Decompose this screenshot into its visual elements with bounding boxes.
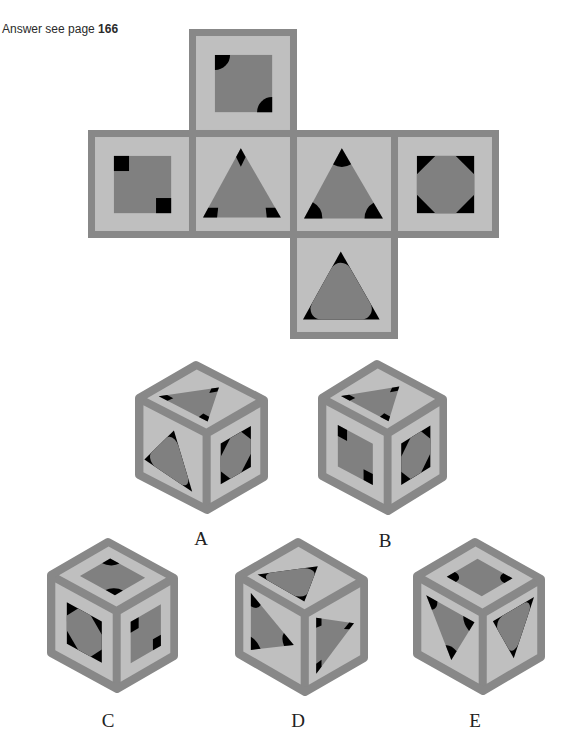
option-label-d: D bbox=[291, 710, 305, 731]
option-label-c: C bbox=[102, 710, 115, 731]
answer-page-number: 166 bbox=[98, 22, 118, 36]
net-face-back bbox=[391, 130, 499, 238]
net-face-right bbox=[290, 130, 398, 238]
puzzle-page: Answer see page 166 bbox=[0, 0, 572, 745]
option-label-e: E bbox=[469, 710, 481, 731]
net-face-front bbox=[189, 130, 297, 238]
net-face-left bbox=[88, 130, 196, 238]
answer-reference: Answer see page 166 bbox=[2, 22, 118, 36]
answer-prefix: Answer see page bbox=[2, 22, 95, 36]
option-label-a: A bbox=[194, 528, 208, 549]
net-face-top bbox=[189, 29, 297, 137]
net-face-bottom bbox=[290, 231, 398, 339]
option-label-b: B bbox=[379, 530, 392, 551]
